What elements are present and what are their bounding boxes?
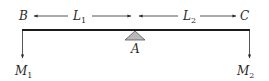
length-l1-label: L1 [72, 9, 86, 25]
length-l2-label: L2 [182, 9, 196, 25]
dimension-l1: L1 [34, 9, 131, 25]
mass-m1-label: M1 [14, 64, 32, 80]
point-b-label: B [18, 9, 28, 23]
mass-m2-label: M2 [236, 64, 254, 80]
point-c-label: C [240, 9, 249, 23]
pivot-a-label: A [130, 42, 140, 56]
dimension-l2: L2 [139, 9, 236, 25]
fulcrum-support-icon [125, 31, 145, 40]
lever-diagram: L1 L2 B C A M1 M2 [0, 0, 269, 81]
